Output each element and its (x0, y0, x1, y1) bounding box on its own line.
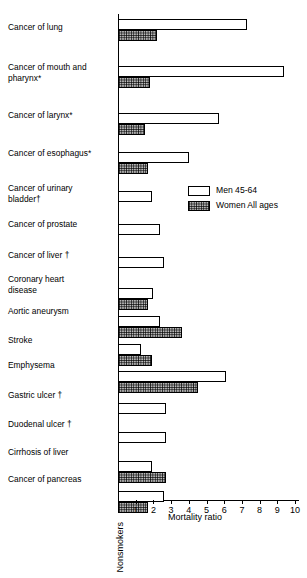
bar-women (118, 124, 145, 135)
bar-men (118, 491, 164, 502)
bar-men (118, 432, 166, 443)
x-tick-label: 7 (234, 505, 250, 516)
x-axis-title: Mortality ratio (168, 512, 222, 522)
bar-men (118, 288, 153, 299)
bar-women (118, 472, 166, 483)
category-label: Cirrhosis of liver (8, 447, 114, 458)
x-tick-label: 8 (252, 505, 268, 516)
bar-men (118, 66, 284, 77)
bar-men (118, 403, 166, 414)
bar-men (118, 113, 219, 124)
category-label: Cancer of esophagus* (8, 148, 114, 159)
category-label: Duodenal ulcer † (8, 419, 114, 430)
plot-area: 12345678910 (118, 14, 307, 500)
bar-women (118, 327, 182, 338)
bar-men (118, 224, 160, 235)
category-label: Cancer of prostate (8, 219, 114, 230)
bar-men (118, 257, 164, 268)
x-tick-mark (189, 500, 190, 504)
x-tick-mark (153, 500, 154, 504)
category-label: Gastric ulcer † (8, 390, 114, 401)
bar-women (118, 382, 198, 393)
legend-swatch-men-icon (188, 186, 210, 196)
x-tick-mark (277, 500, 278, 504)
bar-women (118, 355, 152, 366)
bar-women (118, 77, 150, 88)
nonsmokers-baseline-label: Nonsmokers (115, 522, 125, 573)
category-label: Cancer of larynx* (8, 110, 114, 121)
x-tick-mark (224, 500, 225, 504)
bar-women (118, 163, 148, 174)
category-label: Cancer of mouth and pharynx* (8, 62, 114, 83)
x-tick-mark (136, 500, 137, 504)
category-label: Coronary heart disease (8, 274, 114, 295)
category-label: Emphysema (8, 360, 114, 371)
bar-men (118, 461, 152, 472)
category-label: Cancer of urinary bladder† (8, 183, 114, 204)
x-tick-label: 1 (128, 505, 144, 516)
x-tick-mark (207, 500, 208, 504)
category-label: Cancer of lung (8, 22, 114, 33)
legend-item-women: Women All ages (188, 200, 278, 211)
x-tick-mark (242, 500, 243, 504)
bar-women (118, 299, 148, 310)
bar-men (118, 344, 141, 355)
mortality-ratio-chart: Cancer of lungCancer of mouth and pharyn… (0, 0, 307, 578)
bar-men (118, 19, 247, 30)
category-label: Cancer of pancreas (8, 474, 114, 485)
bar-men (118, 152, 189, 163)
legend-swatch-women-icon (188, 201, 210, 211)
x-tick-mark (295, 500, 296, 504)
bar-men (118, 191, 152, 202)
x-tick-mark (260, 500, 261, 504)
bar-women (118, 30, 157, 41)
legend-label-men: Men 45-64 (216, 185, 257, 196)
x-tick-label: 2 (145, 505, 161, 516)
bar-men (118, 316, 160, 327)
legend-label-women: Women All ages (216, 200, 278, 211)
x-tick-label: 9 (269, 505, 285, 516)
category-label: Stroke (8, 335, 114, 346)
bar-men (118, 371, 226, 382)
legend: Men 45-64 Women All ages (188, 185, 278, 215)
legend-item-men: Men 45-64 (188, 185, 278, 196)
x-tick-label: 10 (287, 505, 303, 516)
x-tick-mark (171, 500, 172, 504)
category-label: Aortic aneurysm (8, 306, 114, 317)
category-label: Cancer of liver † (8, 250, 114, 261)
